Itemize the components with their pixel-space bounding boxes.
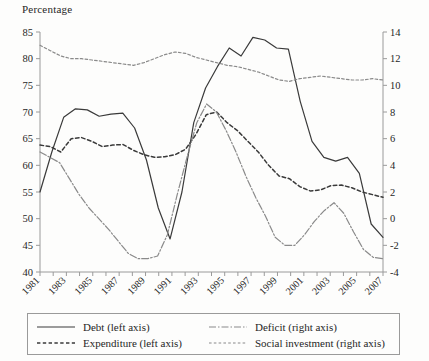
svg-text:70: 70	[23, 107, 34, 118]
svg-text:1985: 1985	[72, 275, 94, 297]
svg-text:2: 2	[390, 187, 395, 198]
svg-text:-2: -2	[390, 240, 399, 251]
legend-item-social-investment: Social investment (right axis)	[208, 337, 385, 350]
svg-text:1987: 1987	[99, 275, 121, 297]
svg-text:4: 4	[390, 160, 396, 171]
svg-text:1995: 1995	[204, 275, 226, 297]
legend-label-expenditure: Expenditure (left axis)	[83, 337, 182, 350]
svg-text:85: 85	[23, 27, 34, 38]
svg-text:8: 8	[390, 107, 395, 118]
series-line-social-investment-right-axis	[40, 45, 383, 81]
figure-container: Percentage 40455055606570758085-4-202468…	[0, 0, 429, 361]
svg-text:2005: 2005	[336, 275, 358, 297]
svg-text:1981: 1981	[19, 275, 41, 297]
legend-label-deficit: Deficit (right axis)	[255, 321, 337, 334]
svg-text:1989: 1989	[125, 275, 147, 297]
svg-text:75: 75	[23, 80, 34, 91]
series-layer	[40, 37, 383, 258]
line-dashdot-icon	[208, 322, 248, 332]
svg-text:50: 50	[23, 213, 34, 224]
legend-label-debt: Debt (left axis)	[83, 321, 150, 334]
svg-text:2001: 2001	[283, 275, 305, 297]
svg-text:65: 65	[23, 133, 34, 144]
svg-text:6: 6	[390, 133, 395, 144]
svg-text:14: 14	[390, 27, 401, 38]
svg-text:55: 55	[23, 187, 34, 198]
line-dashed-icon	[36, 338, 76, 348]
svg-text:1991: 1991	[151, 275, 173, 297]
chart-legend: Debt (left axis) Deficit (right axis) Ex…	[27, 313, 400, 355]
svg-text:80: 80	[23, 53, 34, 64]
svg-text:1999: 1999	[257, 275, 279, 297]
svg-text:2003: 2003	[310, 275, 332, 297]
legend-item-deficit: Deficit (right axis)	[208, 321, 337, 334]
svg-text:10: 10	[390, 80, 401, 91]
chart-plot-area: 40455055606570758085-4-20246810121419811…	[0, 0, 429, 361]
legend-label-social-investment: Social investment (right axis)	[255, 337, 385, 350]
svg-text:0: 0	[390, 213, 395, 224]
series-line-deficit-right-axis	[40, 104, 383, 259]
series-line-debt-left-axis	[40, 37, 383, 239]
svg-text:12: 12	[390, 53, 401, 64]
svg-text:45: 45	[23, 240, 34, 251]
svg-text:1997: 1997	[231, 275, 253, 297]
legend-row: Expenditure (left axis) Social investmen…	[36, 335, 393, 351]
series-line-expenditure-left-axis	[40, 112, 383, 197]
svg-text:60: 60	[23, 160, 34, 171]
line-solid-icon	[36, 322, 76, 332]
legend-item-expenditure: Expenditure (left axis)	[36, 337, 208, 350]
legend-item-debt: Debt (left axis)	[36, 321, 208, 334]
svg-text:1993: 1993	[178, 275, 200, 297]
line-dotted-icon	[208, 338, 248, 348]
legend-row: Debt (left axis) Deficit (right axis)	[36, 319, 393, 335]
axes-layer: 40455055606570758085-4-20246810121419811…	[19, 27, 401, 297]
svg-text:1983: 1983	[46, 275, 68, 297]
svg-text:-4: -4	[390, 267, 399, 278]
svg-text:2007: 2007	[362, 275, 384, 297]
